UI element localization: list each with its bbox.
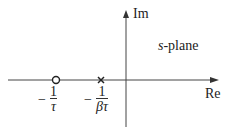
real-axis-arrow-icon bbox=[210, 77, 219, 83]
imaginary-axis-label: Im bbox=[133, 7, 149, 21]
pole-label-sign: − bbox=[84, 92, 92, 108]
zero-label-sign: − bbox=[38, 92, 46, 108]
s-plane-title: s-plane bbox=[158, 39, 198, 53]
imaginary-axis-arrow-icon bbox=[123, 10, 129, 18]
zero-label: − 1 τ bbox=[38, 85, 57, 114]
s-plane-title-rest: -plane bbox=[163, 38, 198, 53]
pole-label: − 1 βτ bbox=[84, 85, 108, 114]
zero-label-denominator: τ bbox=[51, 99, 56, 114]
pole-label-denominator: βτ bbox=[96, 99, 108, 114]
real-axis-label: Re bbox=[205, 87, 221, 101]
s-plane-diagram bbox=[0, 0, 230, 132]
zero-circle-icon bbox=[53, 77, 60, 84]
pole-label-numerator: 1 bbox=[98, 85, 105, 98]
zero-label-numerator: 1 bbox=[50, 85, 57, 98]
